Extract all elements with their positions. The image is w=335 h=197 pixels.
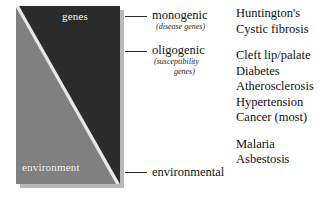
genes-environment-diagram: genes environment xyxy=(16,6,120,184)
leader-line-oligogenic xyxy=(125,51,147,52)
disease-item: Asbestosis xyxy=(236,152,335,168)
disease-item: Hypertension xyxy=(236,95,335,111)
disease-item: Huntington's xyxy=(236,6,335,22)
category-monogenic-label: monogenic xyxy=(152,8,208,22)
leader-line-monogenic xyxy=(125,16,147,17)
figure-canvas: genes environment monogenic (disease gen… xyxy=(0,0,335,197)
category-environmental: environmental xyxy=(152,165,224,179)
disease-examples-list: Huntington's Cystic fibrosis Cleft lip/p… xyxy=(236,6,335,168)
diagram-wedges-svg xyxy=(16,6,120,184)
category-oligogenic-label: oligogenic xyxy=(152,43,205,57)
disease-group-oligogenic: Cleft lip/palate Diabetes Atherosclerosi… xyxy=(236,48,335,126)
category-monogenic-sublabel: (disease genes) xyxy=(152,22,208,32)
category-oligogenic: oligogenic (susceptibility genes) xyxy=(152,43,205,76)
category-environmental-label: environmental xyxy=(152,165,224,179)
category-monogenic: monogenic (disease genes) xyxy=(152,8,208,32)
category-oligogenic-sublabel-line2: genes) xyxy=(152,67,205,77)
disease-item: Cleft lip/palate xyxy=(236,48,335,64)
disease-item: Malaria xyxy=(236,137,335,153)
genes-wedge-label: genes xyxy=(16,10,120,22)
disease-item: Cystic fibrosis xyxy=(236,22,335,38)
leader-line-environmental xyxy=(125,172,147,173)
category-oligogenic-sublabel-line1: (susceptibility xyxy=(152,57,205,67)
disease-item: Cancer (most) xyxy=(236,110,335,126)
disease-item: Atherosclerosis xyxy=(236,79,335,95)
disease-group-monogenic: Huntington's Cystic fibrosis xyxy=(236,6,335,37)
disease-item: Diabetes xyxy=(236,64,335,80)
disease-group-environmental: Malaria Asbestosis xyxy=(236,137,335,168)
environment-wedge-label: environment xyxy=(22,161,80,173)
